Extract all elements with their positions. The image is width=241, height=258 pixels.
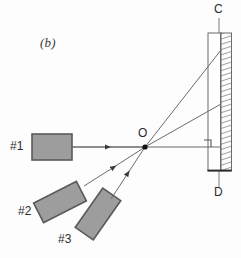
diagram-svg (0, 0, 241, 258)
screen-body (208, 33, 221, 171)
incident-beam-2 (84, 147, 145, 186)
incident-beam-3 (111, 147, 145, 199)
source-2-label: #2 (18, 205, 32, 217)
source-3-label: #3 (58, 233, 72, 245)
figure-canvas: (b) #1 #2 #3 O C D (0, 0, 241, 258)
panel-label: (b) (40, 36, 56, 49)
hatched-screen (208, 18, 232, 188)
laser-source-1 (32, 134, 72, 160)
screen-top-label: C (214, 3, 223, 15)
source-2-body (34, 181, 87, 222)
laser-source-2 (34, 181, 87, 222)
convergence-point-dot (142, 144, 147, 149)
source-1-label: #1 (10, 140, 24, 152)
screen-hatched-strip (221, 33, 232, 171)
screen-bottom-label: D (214, 186, 223, 198)
source-1-body (32, 134, 72, 160)
origin-label: O (138, 127, 148, 139)
